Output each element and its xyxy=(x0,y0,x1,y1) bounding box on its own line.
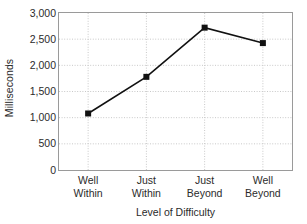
x-axis-tick-label-line: Well xyxy=(74,174,103,187)
x-axis-tick-label-line: Beyond xyxy=(187,187,223,200)
x-axis-tick-label-line: Just xyxy=(187,174,223,187)
x-axis-tick-label: WellWithin xyxy=(74,174,103,199)
x-axis-tick-labels: WellWithinJustWithinJustBeyondWellBeyond xyxy=(58,174,293,210)
y-axis-tick-label: 1,500 xyxy=(18,86,56,97)
y-axis-tick-label: 1,000 xyxy=(18,112,56,123)
data-point-markers xyxy=(85,25,266,117)
x-axis-tick-label-line: Within xyxy=(74,187,103,200)
x-axis-tick-label-line: Just xyxy=(132,174,161,187)
x-axis-tick-label: WellBeyond xyxy=(245,174,281,199)
line-chart: Milliseconds 05001,0001,5002,0002,5003,0… xyxy=(0,0,307,224)
plot-svg xyxy=(59,13,292,170)
data-point-marker xyxy=(202,25,208,31)
y-axis-tick-label: 2,000 xyxy=(18,60,56,71)
data-point-marker xyxy=(143,74,149,80)
x-axis-tick-label-line: Beyond xyxy=(245,187,281,200)
horizontal-gridlines xyxy=(59,39,292,144)
y-axis-tick-label: 0 xyxy=(18,165,56,176)
data-line xyxy=(88,28,263,114)
y-axis-tick-label: 2,500 xyxy=(18,34,56,45)
y-axis-tick-labels: 05001,0001,5002,0002,5003,000 xyxy=(16,0,56,224)
x-axis-title: Level of Difficulty xyxy=(58,206,293,218)
x-axis-tick-label: JustBeyond xyxy=(187,174,223,199)
data-point-marker xyxy=(85,110,91,116)
y-axis-tick-label: 3,000 xyxy=(18,8,56,19)
x-axis-tick-label-line: Well xyxy=(245,174,281,187)
x-axis-tick-label-line: Within xyxy=(132,187,161,200)
y-axis-title-text: Milliseconds xyxy=(3,58,15,116)
y-axis-tick-label: 500 xyxy=(18,138,56,149)
x-axis-tick-label: JustWithin xyxy=(132,174,161,199)
data-point-marker xyxy=(260,40,266,46)
plot-area xyxy=(58,12,293,171)
